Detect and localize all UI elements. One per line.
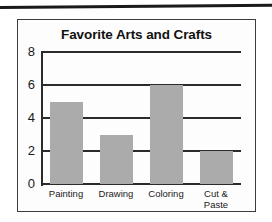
chart-title: Favorite Arts and Crafts [17, 27, 256, 42]
y-tick-label-8: 8 [28, 45, 35, 58]
bar [200, 151, 233, 184]
x-category-label: Coloring [141, 188, 191, 199]
chart-page: Favorite Arts and Crafts 02468PaintingDr… [0, 0, 272, 222]
plot-area: 02468PaintingDrawingColoringCut & Paste [41, 52, 241, 184]
y-tick-label-6: 6 [28, 78, 35, 91]
bar [100, 135, 133, 185]
x-category-label: Painting [41, 188, 91, 199]
page-rule-divider [0, 4, 272, 9]
bar [150, 85, 183, 184]
y-tick-label-4: 4 [28, 111, 35, 124]
gridline-6 [41, 84, 241, 86]
bar [50, 102, 83, 185]
x-category-label: Cut & Paste [191, 188, 241, 210]
y-tick-label-2: 2 [28, 144, 35, 157]
x-category-label: Drawing [91, 188, 141, 199]
y-tick-label-0: 0 [28, 177, 35, 190]
gridline-8 [41, 51, 241, 53]
